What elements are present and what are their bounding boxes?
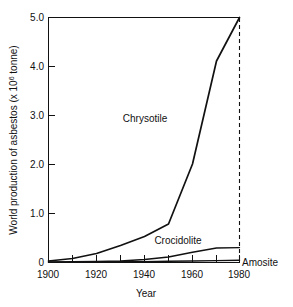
y-tick-label-4: 4.0 (30, 61, 44, 72)
x-tick-label-1960: 1960 (181, 269, 204, 280)
chart-canvas: 5.0 4.0 3.0 2.0 1.0 0 1900 1920 1940 196… (0, 0, 293, 307)
x-tick-label-1900: 1900 (37, 269, 60, 280)
x-tick-label-1940: 1940 (133, 269, 156, 280)
crocidolite-label: Crocidolite (154, 235, 202, 246)
y-tick-label-2: 2.0 (30, 159, 44, 170)
y-axis-title: World production of asbestos (x 106 tonn… (8, 45, 20, 234)
y-tick-label-0: 0 (38, 257, 44, 268)
y-tick-label-1: 1.0 (30, 208, 44, 219)
y-tick-label-5: 5.0 (30, 12, 44, 23)
x-tick-label-1920: 1920 (85, 269, 108, 280)
y-tick-label-3: 3.0 (30, 110, 44, 121)
x-tick-label-1980: 1980 (228, 269, 251, 280)
x-axis-title: Year (136, 288, 157, 299)
chrysotile-label: Chrysotile (123, 113, 168, 124)
asbestos-production-chart: 5.0 4.0 3.0 2.0 1.0 0 1900 1920 1940 196… (0, 0, 293, 307)
amosite-label: Amosite (242, 257, 279, 268)
y-axis-title-prefix: World production of asbestos (x 10 (8, 80, 19, 235)
y-axis-title-suffix: tonne) (8, 45, 19, 76)
